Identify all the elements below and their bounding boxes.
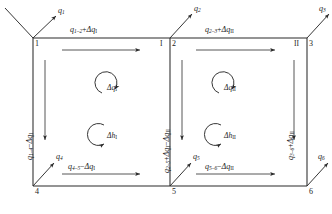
outflow-line-q6 (307, 163, 328, 186)
diagram-canvas: 1 2 3 4 5 6 I II q1 q2 q3 q4 q5 q6 q1–2+… (0, 0, 332, 214)
external-flow-label-q3: q3 (319, 5, 326, 13)
edge-label-e23: q2–3+ΔqII (205, 26, 234, 34)
loop-label-2: II (294, 40, 299, 48)
correction-label-dq2: ΔqII (224, 84, 236, 92)
external-flow-label-q2: q2 (194, 5, 201, 13)
correction-label-dq1: ΔqI (107, 84, 117, 92)
edge-label-e45: q4–5−ΔqI (68, 163, 95, 171)
network-graphic (0, 0, 332, 214)
edge-label-e56: q5–6−ΔqII (205, 163, 234, 171)
edge-label-e14: q1–4−ΔqI (26, 133, 34, 160)
loop-label-1: I (160, 40, 163, 48)
node-label-5: 5 (172, 188, 176, 196)
correction-label-dh1: ΔhI (107, 132, 117, 140)
edge-label-e36: q3–6+ΔqII (287, 131, 295, 160)
external-flow-label-q5: q5 (193, 153, 200, 161)
outflow-line-q5 (170, 163, 191, 186)
outflow-line-q2 (170, 14, 192, 38)
correction-label-dh2: ΔhII (224, 132, 236, 140)
outflow-line-q3 (307, 14, 329, 38)
node-label-1: 1 (35, 40, 39, 48)
external-flow-label-q1: q1 (58, 7, 65, 15)
node-label-6: 6 (309, 188, 313, 196)
node-label-3: 3 (309, 40, 313, 48)
outflow-line-q1 (33, 16, 56, 38)
outflow-line-q4 (33, 163, 54, 186)
external-flow-label-q4: q4 (56, 153, 63, 161)
inflow-line-node1 (5, 8, 33, 38)
edge-label-e12: q1–2+ΔqI (70, 26, 97, 34)
external-flow-label-q6: q6 (318, 153, 325, 161)
node-label-4: 4 (35, 188, 39, 196)
arc-dh1 (87, 124, 104, 146)
arc-dh2 (204, 124, 221, 146)
node-label-2: 2 (172, 40, 176, 48)
edge-label-e25: q2–5+ΔqI−ΔqII (163, 129, 171, 173)
